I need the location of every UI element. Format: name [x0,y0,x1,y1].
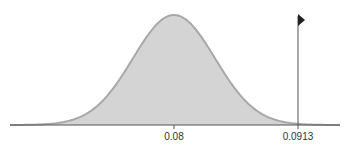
tick-label-critical: 0.0913 [283,131,314,142]
normal-distribution-chart [0,0,350,151]
tick-label-mean: 0.08 [164,131,183,142]
arrow-right-icon [298,14,305,26]
